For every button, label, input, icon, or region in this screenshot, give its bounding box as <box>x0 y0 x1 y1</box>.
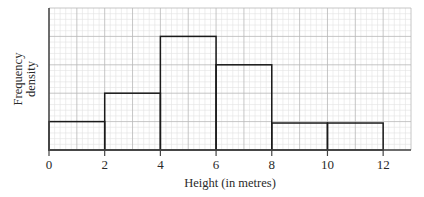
x-tick-label: 10 <box>321 157 334 172</box>
histogram-chart: 024681012 Height (in metres) Frequency d… <box>0 0 424 197</box>
minor-grid <box>49 8 411 150</box>
y-axis-label: Frequency density <box>11 52 38 106</box>
x-tick-label: 12 <box>377 157 390 172</box>
x-tick-label: 4 <box>157 157 164 172</box>
x-tick-label: 0 <box>46 157 53 172</box>
x-tick-label: 2 <box>101 157 108 172</box>
x-axis-label: Height (in metres) <box>184 176 276 190</box>
y-axis-label-line1: Frequency <box>11 52 25 106</box>
major-grid <box>49 8 411 150</box>
axes <box>49 8 411 151</box>
x-tick-label: 6 <box>213 157 220 172</box>
x-axis-ticks: 024681012 <box>46 150 390 172</box>
x-tick-label: 8 <box>269 157 276 172</box>
y-axis-label-line2: density <box>24 60 38 97</box>
